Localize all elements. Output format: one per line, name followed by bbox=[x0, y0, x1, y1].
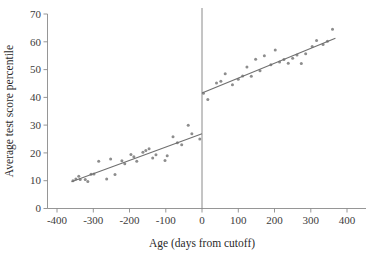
data-point bbox=[77, 175, 80, 178]
data-point bbox=[148, 147, 151, 150]
data-point bbox=[245, 66, 248, 69]
x-tick-marks bbox=[57, 209, 347, 213]
x-tick-label: -100 bbox=[156, 214, 177, 226]
x-axis-title: Age (days from cutoff) bbox=[149, 237, 255, 250]
data-point bbox=[151, 156, 154, 159]
y-tick-label: 70 bbox=[30, 8, 42, 20]
right-fit-line bbox=[202, 38, 335, 93]
data-point bbox=[206, 98, 209, 101]
data-point bbox=[198, 138, 201, 141]
data-point bbox=[86, 180, 89, 183]
data-point bbox=[97, 160, 100, 163]
y-tick-label: 50 bbox=[30, 63, 42, 75]
data-point bbox=[180, 143, 183, 146]
data-point bbox=[300, 62, 303, 65]
y-tick-labels: 0 10 20 30 40 50 60 70 bbox=[30, 8, 42, 215]
y-tick-label: 60 bbox=[30, 36, 42, 48]
scatter-plot: 0 10 20 30 40 50 60 70 -400 -300 -200 -1… bbox=[0, 0, 371, 265]
data-point bbox=[84, 178, 87, 181]
x-tick-label: 100 bbox=[230, 214, 247, 226]
data-point bbox=[109, 158, 112, 161]
figure: 0 10 20 30 40 50 60 70 -400 -300 -200 -1… bbox=[0, 0, 371, 265]
x-tick-label: -200 bbox=[119, 214, 140, 226]
data-point bbox=[164, 159, 167, 162]
x-tick-label: 300 bbox=[303, 214, 320, 226]
data-point bbox=[231, 83, 234, 86]
data-point bbox=[172, 135, 175, 138]
data-point bbox=[304, 52, 307, 55]
data-point bbox=[166, 154, 169, 157]
y-tick-label: 30 bbox=[30, 119, 42, 131]
data-point bbox=[135, 160, 138, 163]
data-point bbox=[291, 57, 294, 60]
data-point bbox=[144, 149, 147, 152]
x-tick-label: 0 bbox=[199, 214, 205, 226]
data-point bbox=[250, 75, 253, 78]
y-tick-label: 10 bbox=[30, 174, 42, 186]
data-points-layer bbox=[71, 28, 334, 183]
data-point bbox=[114, 173, 117, 176]
data-point bbox=[105, 178, 108, 181]
x-tick-label: 200 bbox=[266, 214, 283, 226]
data-point bbox=[141, 151, 144, 154]
data-point bbox=[129, 153, 132, 156]
y-tick-label: 0 bbox=[36, 202, 42, 214]
data-point bbox=[187, 124, 190, 127]
x-tick-labels: -400 -300 -200 -100 0 100 200 300 400 bbox=[47, 214, 356, 226]
data-point bbox=[132, 155, 135, 158]
data-point bbox=[215, 81, 218, 84]
y-axis-title: Average test score percentile bbox=[3, 45, 16, 177]
data-point bbox=[120, 159, 123, 162]
data-point bbox=[219, 80, 222, 83]
data-point bbox=[331, 28, 334, 31]
y-tick-marks bbox=[44, 14, 48, 209]
y-tick-label: 40 bbox=[30, 91, 42, 103]
data-point bbox=[154, 153, 157, 156]
x-tick-label: -400 bbox=[47, 214, 68, 226]
data-point bbox=[254, 58, 257, 61]
x-tick-label: 400 bbox=[339, 214, 356, 226]
data-point bbox=[190, 132, 193, 135]
data-point bbox=[315, 39, 318, 42]
data-point bbox=[274, 49, 277, 52]
data-point bbox=[287, 62, 290, 65]
y-tick-label: 20 bbox=[30, 147, 42, 159]
x-tick-label: -300 bbox=[83, 214, 104, 226]
data-point bbox=[263, 54, 266, 57]
left-fit-line bbox=[72, 134, 203, 182]
data-point bbox=[224, 72, 227, 75]
